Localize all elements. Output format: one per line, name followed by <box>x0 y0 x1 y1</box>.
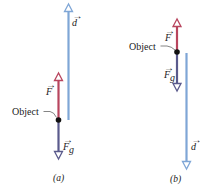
displacement-arrow-b <box>183 53 191 169</box>
arrowhead-down-icon <box>183 162 191 170</box>
work-gravity-diagram: d → F → F g → Object (a) F → <box>0 0 205 187</box>
caption-a: (a) <box>53 173 64 184</box>
arrowhead-down-icon <box>173 84 181 92</box>
vector-accent-f-a: → <box>46 79 56 90</box>
object-dot-a <box>56 117 62 123</box>
gravity-subscript-a: g <box>69 144 74 155</box>
caption-b: (b) <box>170 174 181 185</box>
arrowhead-up-icon <box>65 4 73 12</box>
arrowhead-down-icon <box>55 152 63 160</box>
vector-accent-d-a: → <box>73 10 83 21</box>
object-leader-line-b <box>161 46 176 50</box>
object-dot-b <box>174 49 180 55</box>
vector-accent-f-b: → <box>165 25 175 36</box>
panel-a: d → F → F g → Object (a) <box>12 4 83 184</box>
panel-b: F → F g → d → Object (b) <box>129 19 202 185</box>
vector-accent-fg-b: → <box>164 62 174 73</box>
vector-accent-fg-a: → <box>63 134 73 145</box>
object-label-a: Object <box>12 106 39 117</box>
gravity-arrow-a <box>55 120 63 159</box>
object-label-b: Object <box>129 41 156 52</box>
object-leader-line-a <box>44 112 57 118</box>
vector-accent-d-b: → <box>192 134 202 145</box>
gravity-subscript-b: g <box>170 72 175 83</box>
